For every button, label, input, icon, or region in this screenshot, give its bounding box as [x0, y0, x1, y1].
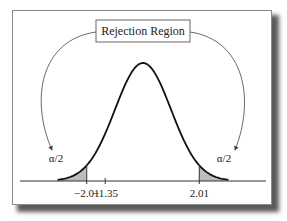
alpha-half-left-label: α/2 — [49, 152, 63, 164]
rejection-region-label: Rejection Region — [101, 24, 185, 38]
tick-label-2-01: 2.01 — [190, 187, 209, 199]
alpha-half-right-label: α/2 — [217, 152, 231, 164]
diagram-canvas: −2.01 −1.35 2.01 Rejection Region α/2 α/… — [0, 0, 287, 221]
arrow-right — [190, 32, 245, 150]
distribution-curve — [58, 63, 229, 180]
tick-label-neg-1-35: −1.35 — [92, 187, 118, 199]
arrow-left — [41, 32, 96, 150]
